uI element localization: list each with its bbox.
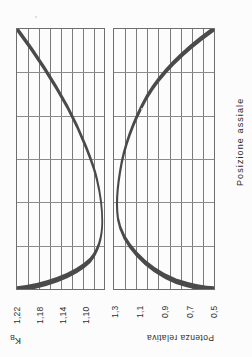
scan-speckle (141, 108, 143, 110)
axis-title-kb-text: K (15, 336, 21, 347)
axis-title-potenza: Potenza relativa (147, 334, 214, 343)
scan-page: 1,22 1,18 1,14 1,10 1,3 1,1 0,9 0,7 0,5 … (0, 0, 252, 357)
tick-label-kb: 1,22 (13, 307, 22, 324)
curve-potenza (114, 29, 214, 289)
tick-label-kb: 1,18 (36, 307, 45, 324)
axis-title-posizione-assiale: Posizione assiale (236, 98, 245, 186)
tick-label-potenza: 1,3 (111, 306, 120, 318)
tick-label-potenza: 0,9 (161, 306, 170, 318)
tick-label-kb: 1,14 (59, 307, 68, 324)
chart-panel-kb (16, 28, 105, 290)
tick-label-potenza: 0,5 (210, 306, 219, 318)
tick-label-potenza: 0,7 (186, 306, 195, 318)
axis-title-kb-subscript: B (10, 334, 15, 341)
scan-speckle (35, 16, 37, 18)
tick-label-kb: 1,10 (82, 307, 91, 324)
tick-label-potenza: 1,1 (136, 306, 145, 318)
curve-kb (17, 29, 104, 289)
chart-panel-potenza (113, 28, 215, 290)
axis-title-kb: KB (10, 334, 21, 346)
